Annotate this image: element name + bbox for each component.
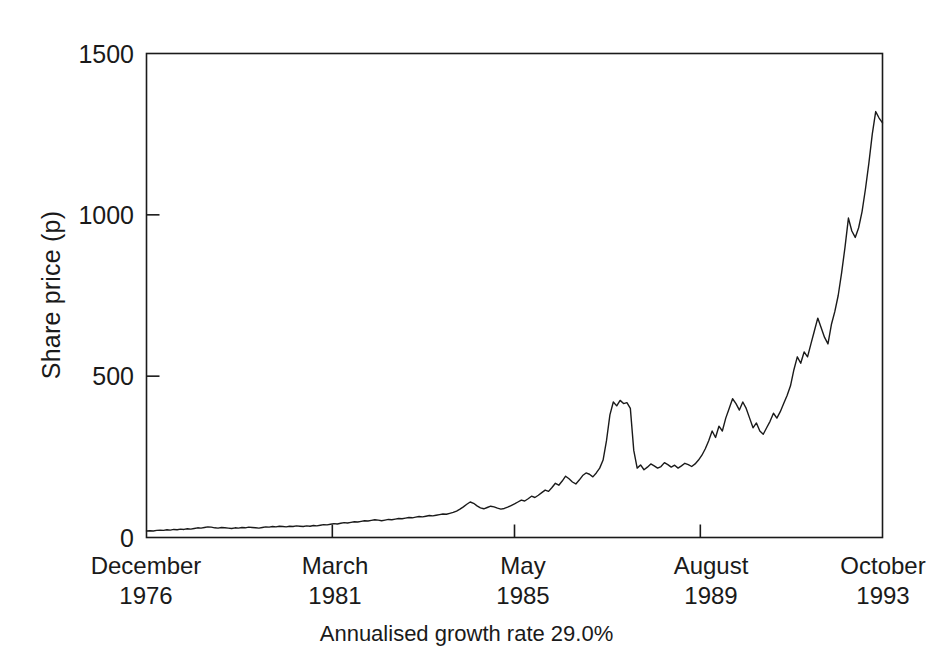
x-tick-label-october-1993: October 1993 bbox=[773, 551, 933, 611]
x-tick-label-march-1981: March 1981 bbox=[225, 551, 445, 611]
share-price-chart-figure: Share price (p) 1500 1000 500 0 December… bbox=[0, 0, 933, 672]
x-tick-label-december-1976: December 1976 bbox=[36, 551, 256, 611]
share-price-line bbox=[147, 112, 883, 531]
x-axis-ticks bbox=[332, 525, 700, 538]
plot-frame bbox=[147, 54, 883, 538]
y-axis-ticks bbox=[147, 215, 160, 376]
x-tick-label-may-1985: May 1985 bbox=[413, 551, 633, 611]
chart-caption: Annualised growth rate 29.0% bbox=[0, 621, 933, 647]
x-axis-tick-labels: December 1976 March 1981 May 1985 August… bbox=[0, 551, 933, 621]
